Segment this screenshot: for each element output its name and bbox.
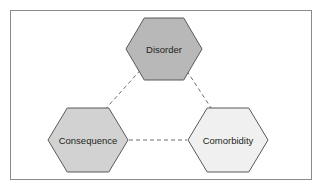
- node-label-disorder: Disorder: [146, 44, 182, 55]
- node-disorder[interactable]: Disorder: [126, 18, 202, 80]
- connector-disorder-consequence: [101, 65, 145, 114]
- node-label-comorbidity: Comorbidity: [203, 135, 254, 146]
- node-consequence[interactable]: Consequence: [48, 108, 128, 172]
- figure-root: Disorder Consequence Comorbidity: [0, 0, 323, 193]
- relationship-diagram: Disorder Consequence Comorbidity: [0, 0, 323, 193]
- node-comorbidity[interactable]: Comorbidity: [188, 108, 268, 172]
- node-label-consequence: Consequence: [59, 135, 118, 146]
